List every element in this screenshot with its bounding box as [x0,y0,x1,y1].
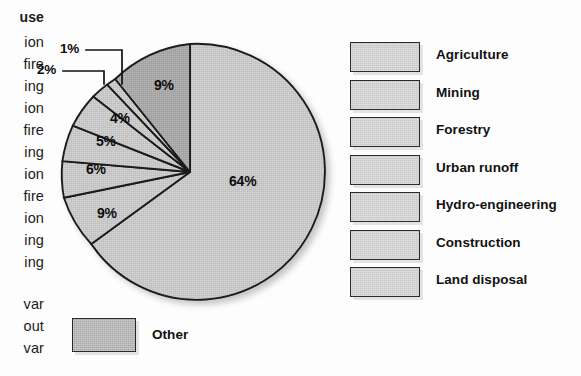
legend-item-construction[interactable]: Construction [350,228,575,266]
left-text-line: ion [24,35,44,50]
pie-slice-agriculture [91,44,325,300]
left-text-line: ing [24,79,44,94]
leader-line-1pct [86,50,122,84]
pie-slice-urban-runoff [62,126,190,172]
legend-swatch-icon [350,155,420,185]
left-text-line: out [24,319,44,334]
legend-item-mining[interactable]: Mining [350,78,575,116]
legend-swatch-icon [350,117,420,147]
pie-slice-hydro-engineering [73,97,190,173]
pie-slice-land-disposal [107,79,190,172]
left-text-line: fire [23,57,44,72]
pie-slice-other [115,44,190,172]
legend-swatch-icon [350,230,420,260]
pie-slices-group [62,44,325,300]
pie-label-urban-runoff: 5% [96,133,116,149]
legend-label: Forestry [436,122,490,137]
legend-item-forestry[interactable]: Forestry [350,115,575,153]
legend-swatch-icon [350,192,420,222]
legend-label: Land disposal [436,272,527,287]
pie-slice-construction [93,85,190,172]
left-text-line: fire [23,123,44,138]
left-text-line: ion [24,211,44,226]
pie-label-hydro-engineering: 4% [110,110,130,126]
legend-swatch-icon [350,80,420,110]
legend-item-agriculture[interactable]: Agriculture [350,40,575,78]
pie-label-agriculture: 64% [229,173,256,189]
legend-label: Construction [436,235,521,250]
left-text-line: fire [23,189,44,204]
legend-swatch-icon [72,318,136,352]
legend: Agriculture Mining Forestry Urban runoff… [350,40,575,303]
leader-line-2pct [63,71,104,84]
pie-slice-mining [64,172,190,244]
pie-label-forestry: 6% [86,161,106,177]
left-text-line: use [20,10,44,25]
pie-label-other: 9% [154,77,174,93]
legend-item-urban-runoff[interactable]: Urban runoff [350,153,575,191]
left-text-column: use ion fire ing ion fire ing ion fire i… [0,0,46,376]
legend-label: Agriculture [436,47,509,62]
legend-swatch-icon [350,267,420,297]
legend-item-hydro-engineering[interactable]: Hydro-engineering [350,190,575,228]
left-text-line: var [24,341,44,356]
legend-item-other[interactable]: Other [72,318,272,358]
chart-page: use ion fire ing ion fire ing ion fire i… [0,0,581,376]
left-text-line: var [24,297,44,312]
left-text-line: ion [24,167,44,182]
left-text-line: ion [24,101,44,116]
callout-leader-lines [63,50,122,84]
pie-label-mining: 9% [97,205,117,221]
left-text-line: ing [24,255,44,270]
left-text-line: ing [24,233,44,248]
pie-slice-forestry [62,161,190,198]
legend-label: Urban runoff [436,160,518,175]
legend-label: Mining [436,85,480,100]
legend-label: Other [152,327,188,342]
left-text-line: ing [24,145,44,160]
legend-swatch-icon [350,42,420,72]
legend-item-land-disposal[interactable]: Land disposal [350,265,575,303]
pie-label-land-disposal: 1% [60,41,79,56]
legend-label: Hydro-engineering [436,197,557,212]
